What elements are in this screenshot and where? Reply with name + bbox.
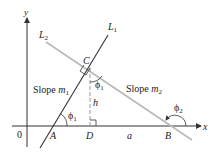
point-D-label: D — [85, 130, 94, 141]
y-axis-label: y — [23, 7, 28, 17]
point-B-label: B — [165, 130, 171, 141]
point-A-label: A — [49, 130, 57, 141]
diagram: y x 0 L2 L1 C A D B Slope m1 Slope m2 h … — [0, 0, 221, 158]
right-angle-D — [90, 120, 96, 126]
a-label: a — [127, 130, 132, 141]
slope-m1-label: Slope m1 — [33, 84, 70, 97]
phi1-at-A-label: ϕ1 — [68, 110, 77, 123]
L2-label: L2 — [38, 29, 49, 42]
point-C-label: C — [83, 55, 90, 66]
origin-label: 0 — [17, 129, 22, 140]
phi2-at-B-label: ϕ2 — [174, 102, 183, 115]
h-label: h — [93, 97, 98, 108]
angle-phi1-A — [61, 114, 67, 126]
diagram-canvas: y x 0 L2 L1 C A D B Slope m1 Slope m2 h … — [0, 0, 221, 158]
slope-m2-label: Slope m2 — [126, 83, 163, 96]
L1-label: L1 — [107, 21, 118, 34]
x-axis-label: x — [202, 121, 208, 132]
